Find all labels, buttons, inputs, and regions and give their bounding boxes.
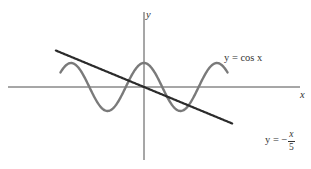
figure: y x y = cos x y = −x5 xyxy=(0,0,311,169)
line-label: y = −x5 xyxy=(265,130,295,152)
fraction-denominator: 5 xyxy=(288,142,294,153)
cos-curve-label: y = cos x xyxy=(224,53,262,64)
x-axis-label: x xyxy=(300,90,305,101)
line-label-prefix: y = − xyxy=(265,134,287,145)
line-label-fraction: x5 xyxy=(288,130,294,152)
y-axis-label: y xyxy=(146,10,151,21)
fraction-numerator: x xyxy=(288,130,294,142)
